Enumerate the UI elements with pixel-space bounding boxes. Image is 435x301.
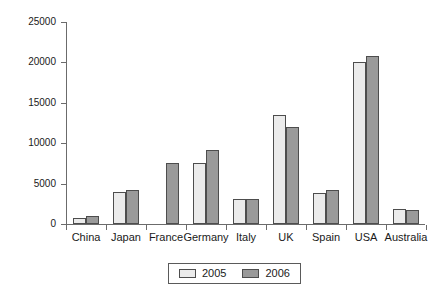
x-axis-tick	[146, 225, 147, 230]
x-axis-tick	[66, 225, 67, 230]
x-axis-label-australia: Australia	[376, 231, 435, 243]
y-axis-tick-label: 0	[0, 219, 56, 229]
y-axis-tick-label-text: 25000	[4, 17, 56, 27]
bar-group	[353, 22, 379, 224]
x-axis-tick	[226, 225, 227, 230]
bar-france-2006	[166, 163, 179, 224]
bar-group	[153, 22, 179, 224]
x-axis-tick	[386, 225, 387, 230]
bar-group	[233, 22, 259, 224]
dark-gray-swatch-icon	[242, 269, 259, 278]
bar-germany-2005	[193, 163, 206, 224]
bar-uk-2006	[286, 127, 299, 224]
y-axis-tick-label: 5000	[0, 179, 56, 189]
chart-legend: 2005 2006	[168, 263, 301, 284]
bar-spain-2006	[326, 190, 339, 224]
bar-group	[113, 22, 139, 224]
x-axis-tick	[306, 225, 307, 230]
bar-uk-2005	[273, 115, 286, 224]
bar-usa-2005	[353, 62, 366, 224]
bar-group	[393, 22, 419, 224]
bar-japan-2005	[113, 192, 126, 224]
bar-china-2006	[86, 216, 99, 224]
legend-entry-2005: 2005	[179, 268, 226, 279]
bar-spain-2005	[313, 193, 326, 224]
bar-germany-2006	[206, 150, 219, 224]
legend-label-2005: 2005	[202, 268, 226, 279]
bar-australia-2005	[393, 209, 406, 224]
bar-italy-2005	[233, 199, 246, 224]
x-axis-tick	[266, 225, 267, 230]
y-axis-tick-label-text: 10000	[4, 138, 56, 148]
y-axis-tick-label-text: 5000	[4, 179, 56, 189]
x-axis-tick	[346, 225, 347, 230]
y-axis-tick-label: 10000	[0, 138, 56, 148]
x-axis-tick	[426, 225, 427, 230]
legend-entry-2006: 2006	[242, 268, 289, 279]
bar-chart: 0500010000150002000025000 ChinaJapanFran…	[0, 0, 435, 301]
y-axis-tick-label: 25000	[0, 17, 56, 27]
bar-group	[313, 22, 339, 224]
bar-group	[273, 22, 299, 224]
bar-italy-2006	[246, 199, 259, 224]
bar-japan-2006	[126, 190, 139, 224]
y-axis-tick-label: 15000	[0, 98, 56, 108]
legend-label-2006: 2006	[265, 268, 289, 279]
light-gray-swatch-icon	[179, 269, 196, 278]
y-axis-tick-label: 20000	[0, 57, 56, 67]
plot-area	[66, 22, 426, 224]
bar-usa-2006	[366, 56, 379, 224]
x-axis-tick	[106, 225, 107, 230]
bar-group	[73, 22, 99, 224]
bar-australia-2006	[406, 210, 419, 224]
x-axis-tick	[186, 225, 187, 230]
y-axis-tick-label-text: 0	[4, 219, 56, 229]
y-axis-tick-label-text: 20000	[4, 57, 56, 67]
bar-china-2005	[73, 218, 86, 224]
x-axis-line	[66, 224, 425, 225]
bar-group	[193, 22, 219, 224]
y-axis-tick-label-text: 15000	[4, 98, 56, 108]
